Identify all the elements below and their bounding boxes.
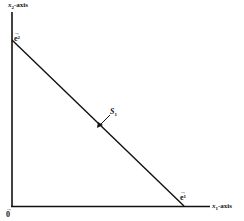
origin-label: →0	[6, 211, 10, 219]
x1-axis-label: x1-axis	[212, 203, 232, 210]
s1-pointer-arrow	[97, 115, 110, 128]
s1-line-label: S1	[110, 108, 117, 116]
x2-axis-label: x2-axis	[8, 2, 28, 9]
e2-point-label: →e2	[14, 35, 20, 43]
e1-point-label: →e1	[180, 194, 186, 202]
vector-arrow-icon: →	[6, 206, 12, 212]
diagram-canvas	[0, 0, 244, 221]
